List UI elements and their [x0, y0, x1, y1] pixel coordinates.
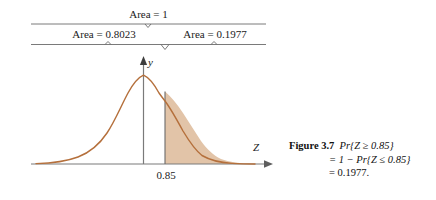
normal-curve [36, 75, 255, 164]
caption-line-2: = 1 − Pr{Z ≤ 0.85} [289, 153, 436, 167]
y-axis [140, 56, 147, 164]
y-axis-label: y [148, 57, 153, 68]
figure-caption: Figure 3.7 Pr{Z ≥ 0.85} = 1 − Pr{Z ≤ 0.8… [289, 139, 436, 180]
bracket-area-split [31, 42, 266, 50]
caption-figure-word: Figure [289, 140, 319, 151]
shaded-tail-region [165, 92, 255, 164]
caption-line-3: = 0.1977. [289, 166, 436, 180]
bracket-area-total [31, 24, 266, 28]
caption-expression-1: Pr{Z ≥ 0.85} [340, 140, 394, 151]
x-axis-label: Z [253, 142, 259, 153]
area-total-label: Area = 1 [0, 9, 297, 20]
caption-line-1: Figure 3.7 Pr{Z ≥ 0.85} [289, 139, 436, 153]
area-right-label: Area = 0.1977 [155, 29, 275, 40]
caption-figure-number: 3.7 [321, 140, 334, 151]
caption-expression-3: = 0.1977. [329, 167, 369, 178]
caption-expression-2: = 1 − Pr{Z ≤ 0.85} [329, 154, 410, 165]
figure-3-7: Area = 1 Area = 0.8023 Area = 0.1977 y Z… [0, 0, 436, 200]
area-left-label: Area = 0.8023 [40, 29, 168, 40]
x-tick-label-085: 0.85 [148, 170, 184, 181]
